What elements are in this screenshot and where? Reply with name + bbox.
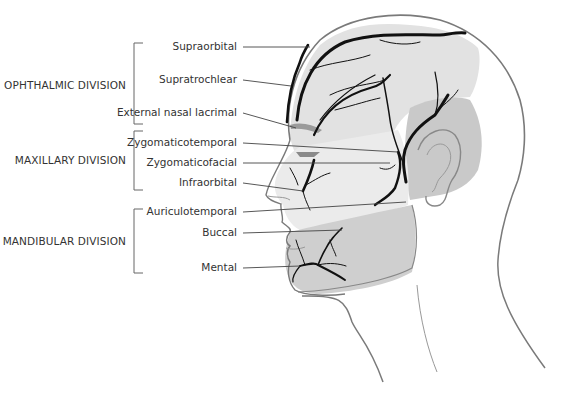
neck-back — [498, 180, 545, 368]
nerve-label-auriculotemporal: Auriculotemporal — [37, 205, 237, 217]
nerve-label-external-nasal-lacrimal: External nasal lacrimal — [37, 106, 237, 118]
nerve-label-buccal: Buccal — [37, 226, 237, 238]
trigeminal-nerve-diagram: OPHTHALMIC DIVISION MAXILLARY DIVISION M… — [0, 0, 563, 402]
nerve-label-infraorbital: Infraorbital — [37, 176, 237, 188]
neck-front — [302, 296, 383, 382]
nerve-label-zygomaticofacial: Zygomaticofacial — [37, 156, 237, 168]
head-illustration — [0, 0, 563, 402]
temporal-region — [405, 98, 482, 200]
neck-middle-line — [417, 285, 437, 372]
nerve-label-zygomaticotemporal: Zygomaticotemporal — [37, 136, 237, 148]
nerve-label-supraorbital: Supraorbital — [37, 40, 237, 52]
nerve-label-supratrochlear: Supratrochlear — [37, 73, 237, 85]
leader-supratrochlear — [243, 80, 291, 86]
nerve-label-mental: Mental — [37, 261, 237, 273]
